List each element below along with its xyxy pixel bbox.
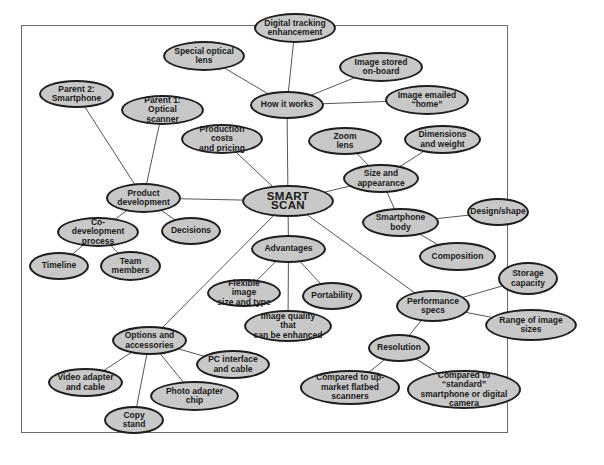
node-special-lens: Special optical lens	[163, 41, 245, 71]
node-zoom-lens: Zoom lens	[308, 127, 382, 155]
node-parent1: Parent 1: Optical scanner	[121, 95, 204, 125]
node-resolution: Resolution	[368, 334, 430, 362]
node-design-shape: Design/shape	[467, 198, 529, 226]
node-performance: Performance specs	[396, 290, 470, 322]
node-how-it-works: How it works	[250, 91, 324, 119]
node-product-dev: Product development	[106, 183, 181, 213]
node-team-members: Team members	[100, 251, 161, 281]
node-image-emailed: Image emailed “home”	[385, 85, 469, 115]
node-smartphone-body: Smartphone body	[362, 208, 439, 237]
node-composition: Composition	[419, 242, 496, 271]
node-upmarket: Compared to up- market flatbed scanners	[300, 370, 400, 405]
node-storage: Storage capacity	[498, 262, 558, 295]
node-smart-scan: SMART SCAN	[242, 185, 334, 217]
node-decisions: Decisions	[161, 217, 221, 245]
node-image-quality: Image quality that can be enhanced	[244, 310, 332, 342]
node-pc-interface: PC interface and cable	[196, 350, 270, 379]
node-production-costs: Production costs and pricing	[181, 124, 263, 154]
node-parent2: Parent 2: Smartphone	[39, 80, 114, 108]
node-options: Options and accessories	[112, 326, 187, 355]
node-range-sizes: Range of image sizes	[485, 309, 577, 341]
node-advantages: Advantages	[251, 235, 326, 263]
node-size-appearance: Size and appearance	[343, 164, 419, 193]
node-timeline: Timeline	[29, 252, 89, 280]
node-digital-tracking: Digital tracking enhancement	[254, 13, 336, 43]
node-dimensions: Dimensions and weight	[404, 125, 481, 154]
node-video-adapter: Video adapter and cable	[48, 368, 123, 397]
node-flexible-image: Flexible image size and type	[207, 279, 281, 307]
node-image-stored: Image stored on-board	[339, 52, 423, 82]
node-co-dev: Co-development process	[57, 217, 139, 247]
node-portability: Portability	[302, 282, 362, 310]
node-standard: Compared to “standard” smartphone or dig…	[407, 370, 521, 409]
node-copy-stand: Copy stand	[104, 406, 164, 434]
node-photo-adapter: Photo adapter chip	[150, 381, 239, 411]
